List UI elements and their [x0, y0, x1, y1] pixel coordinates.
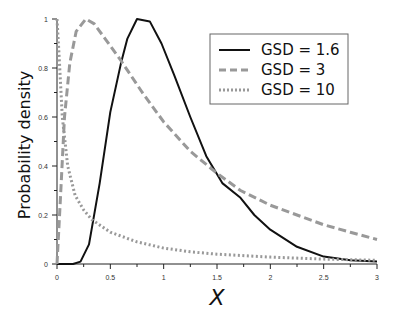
line-chart: 00.511.522.5300.20.40.60.81 Probability …: [0, 0, 398, 321]
y-tick-label: 0.6: [38, 114, 48, 121]
legend-label-gsd-3: GSD = 3: [261, 61, 325, 79]
y-tick-label: 1: [44, 16, 48, 23]
y-tick-label: 0.4: [38, 163, 48, 170]
x-tick-label: 3: [375, 274, 379, 281]
legend-label-gsd-10: GSD = 10: [261, 81, 335, 99]
x-tick-label: 1.5: [212, 274, 222, 281]
y-tick-label: 0.8: [38, 65, 48, 72]
y-axis-title: Probability density: [15, 71, 34, 219]
x-tick-label: 0.5: [105, 274, 115, 281]
y-tick-label: 0: [44, 261, 48, 268]
y-tick-label: 0.2: [38, 212, 48, 219]
legend-label-gsd-1-6: GSD = 1.6: [261, 41, 340, 59]
x-tick-label: 0: [55, 274, 59, 281]
x-tick-label: 2.5: [319, 274, 329, 281]
legend: GSD = 1.6 GSD = 3 GSD = 10: [210, 34, 348, 104]
x-tick-label: 1: [162, 274, 166, 281]
x-tick-label: 2: [268, 274, 272, 281]
x-axis-title: X: [208, 285, 225, 310]
